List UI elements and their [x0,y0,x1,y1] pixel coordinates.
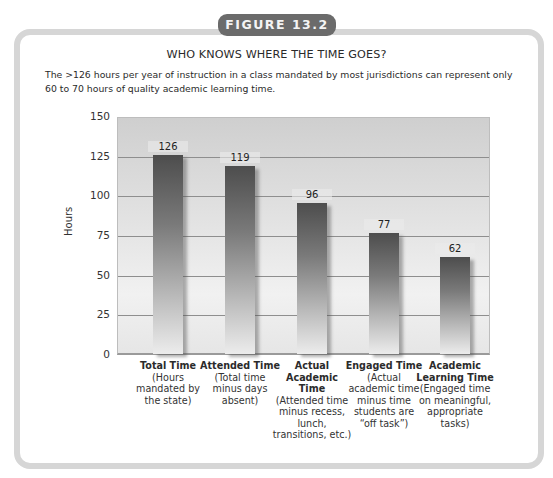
category-name: Engaged Time [346,360,423,371]
category-description: (Total time minus days absent) [200,372,280,407]
y-tick-label: 100 [70,189,110,201]
category-description: (Attended time minus recess, lunch, tran… [272,395,352,441]
bar-value-label: 62 [435,243,475,254]
y-tick-label: 125 [70,150,110,162]
y-tick-label: 0 [70,348,110,360]
x-category-label: Academic Learning Time(Engaged time on m… [415,360,495,429]
y-tick-label: 150 [70,110,110,122]
bar [225,166,255,354]
bar-value-label: 126 [148,141,188,152]
y-tick-label: 50 [70,269,110,281]
chart-caption: The >126 hours per year of instruction i… [45,68,515,96]
category-name: Actual Academic Time [286,360,338,394]
bar-value-label: 96 [292,189,332,200]
category-name: Attended Time [200,360,280,371]
y-tick-label: 75 [70,229,110,241]
category-name: Academic Learning Time [416,360,493,383]
category-description: (Engaged time on meaningful, appropriate… [415,383,495,429]
bar [369,233,399,354]
y-tick-label: 25 [70,308,110,320]
x-category-label: Engaged Time(Actual academic time minus … [344,360,424,429]
chart-title: WHO KNOWS WHERE THE TIME GOES? [0,48,553,61]
x-category-label: Attended Time(Total time minus days abse… [200,360,280,406]
bar-value-label: 77 [364,219,404,230]
bar [297,203,327,354]
bar-value-label: 119 [220,152,260,163]
x-category-label: Actual Academic Time(Attended time minus… [272,360,352,441]
bar [153,155,183,354]
bar [440,257,470,354]
figure-label-badge: FIGURE 13.2 [218,14,336,36]
category-description: (Actual academic time minus time student… [344,372,424,430]
category-name: Total Time [140,360,196,371]
category-description: (Hours mandated by the state) [128,372,208,407]
x-category-label: Total Time(Hours mandated by the state) [128,360,208,406]
